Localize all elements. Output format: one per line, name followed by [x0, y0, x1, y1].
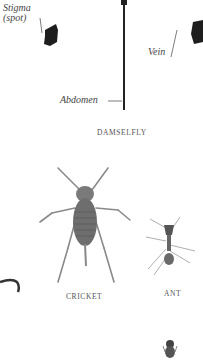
partial-insect-bottom [160, 338, 180, 360]
ant-caption: ANT [164, 289, 181, 298]
stigma-label-line2: (spot) [3, 13, 31, 23]
cricket-figure: CRICKET [30, 160, 140, 300]
damselfly-figure: Stigma (spot) Vein Abdomen DAMSELFLY [0, 0, 203, 140]
cricket-illustration [30, 160, 140, 290]
abdomen-label: Abdomen [60, 95, 98, 105]
ant-figure: ANT [140, 215, 203, 300]
partial-insect-leg [0, 278, 25, 298]
ant-illustration [140, 215, 203, 285]
stigma-label: Stigma (spot) [3, 3, 31, 23]
damselfly-caption: DAMSELFLY [97, 128, 147, 137]
vein-label: Vein [148, 47, 165, 57]
cricket-caption: CRICKET [66, 292, 102, 301]
